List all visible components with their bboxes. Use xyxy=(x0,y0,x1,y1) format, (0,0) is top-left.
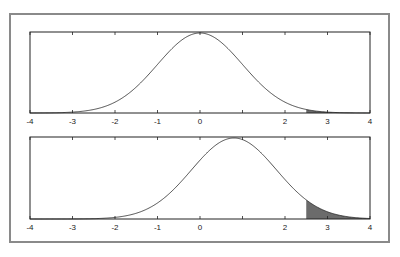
plot-box xyxy=(30,137,370,219)
x-tick-label: -3 xyxy=(69,223,77,232)
x-tick-label: -2 xyxy=(111,223,119,232)
plot-box xyxy=(30,32,370,113)
x-tick-label: -4 xyxy=(26,117,34,126)
x-tick-label: 2 xyxy=(283,117,288,126)
panel-1: -4-3-2-10234 xyxy=(26,32,372,126)
x-tick-label: 0 xyxy=(198,117,203,126)
density-curve xyxy=(30,138,370,219)
x-tick-label: 3 xyxy=(325,223,330,232)
x-tick-label: 4 xyxy=(368,117,373,126)
x-tick-label: 3 xyxy=(325,117,330,126)
chart-canvas: -4-3-2-10234-4-3-2-10234 xyxy=(0,0,400,257)
x-tick-label: 2 xyxy=(283,223,288,232)
density-curve xyxy=(30,33,370,113)
x-tick-label: 4 xyxy=(368,223,373,232)
x-tick-label: 0 xyxy=(198,223,203,232)
x-tick-label: -2 xyxy=(111,117,119,126)
x-tick-label: -4 xyxy=(26,223,34,232)
x-tick-label: -3 xyxy=(69,117,77,126)
panel-2: -4-3-2-10234 xyxy=(26,137,372,232)
shaded-tail xyxy=(306,200,370,219)
x-tick-label: -1 xyxy=(154,117,162,126)
x-tick-label: -1 xyxy=(154,223,162,232)
